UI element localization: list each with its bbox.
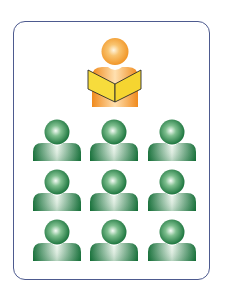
student-icon [148,170,196,212]
student-icon [33,170,81,212]
student-icon [148,220,196,262]
classroom-diagram [0,0,226,297]
student-icon [90,220,138,262]
students-grid [33,120,196,262]
teacher-figure [88,38,141,107]
student-icon [33,120,81,162]
teacher-head [102,38,129,65]
student-icon [33,220,81,262]
student-icon [90,170,138,212]
student-icon [90,120,138,162]
student-icon [148,120,196,162]
